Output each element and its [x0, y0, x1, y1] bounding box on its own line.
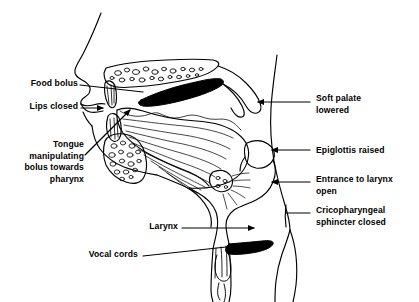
label-entrance-to-larynx: Entrance to larynx open [316, 174, 416, 197]
hard-palate-bone-stipple [110, 67, 203, 82]
food-bolus-shape [139, 79, 224, 107]
label-cricopharyngeal: Cricopharyngeal sphincter closed [316, 205, 418, 228]
nose-profile-path [75, 13, 101, 104]
trachea-cartilage-rings [215, 246, 227, 278]
diagram-canvas: Food bolus Lips closed Tongue manipulati… [0, 0, 419, 302]
pharyngeal-wall-path [157, 160, 275, 249]
label-tongue: Tongue manipulating bolus towards pharyn… [2, 139, 84, 185]
label-food-bolus: Food bolus [6, 78, 78, 90]
cervical-spine-line [285, 205, 286, 227]
laryngeal-lumen-path [215, 253, 231, 302]
chin-profile-path [92, 126, 157, 175]
soft-palate-uvula-path [218, 66, 261, 117]
label-larynx: Larynx [110, 221, 178, 233]
upper-lip-path [81, 104, 105, 106]
label-lips-closed: Lips closed [6, 101, 78, 113]
vocal-cords-shape [226, 241, 274, 255]
hyoid-bone-path [209, 170, 232, 191]
label-soft-palate: Soft palate lowered [316, 93, 416, 116]
label-epiglottis: Epiglottis raised [316, 145, 416, 157]
label-vocal-cords: Vocal cords [72, 249, 138, 261]
lips-closed-path [81, 104, 103, 126]
lower-teeth-path [107, 114, 122, 142]
